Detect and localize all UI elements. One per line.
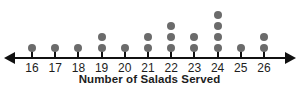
- data-dot-24-2: [214, 33, 222, 41]
- data-dot-26-1: [260, 44, 268, 52]
- data-dot-22-1: [167, 44, 175, 52]
- data-dot-22-2: [167, 33, 175, 41]
- axis-tick-25: [240, 51, 242, 59]
- data-dot-22-3: [167, 22, 175, 30]
- data-dot-18-1: [74, 44, 82, 52]
- data-dot-26-2: [260, 33, 268, 41]
- dot-plot-figure: oal 1617181920212223242526 Number of Sal…: [0, 0, 299, 87]
- data-dot-19-2: [98, 33, 106, 41]
- data-dot-24-3: [214, 22, 222, 30]
- data-dot-19-1: [98, 44, 106, 52]
- axis-tick-23: [193, 51, 195, 59]
- data-dot-21-2: [144, 33, 152, 41]
- data-dot-24-4: [214, 11, 222, 19]
- axis-tick-26: [263, 51, 265, 59]
- axis-tick-22: [170, 51, 172, 59]
- data-dot-21-1: [144, 44, 152, 52]
- data-dot-17-1: [51, 44, 59, 52]
- axis-tick-17: [54, 51, 56, 59]
- clipped-heading-fragment: oal: [4, 0, 19, 1]
- axis-tick-21: [147, 51, 149, 59]
- data-dot-23-1: [190, 44, 198, 52]
- data-dot-25-1: [237, 44, 245, 52]
- axis-tick-16: [31, 51, 33, 59]
- data-dot-24-1: [214, 44, 222, 52]
- axis-tick-24: [217, 51, 219, 59]
- data-dot-16-1: [28, 44, 36, 52]
- axis-tick-20: [124, 51, 126, 59]
- axis-tick-19: [101, 51, 103, 59]
- axis-tick-18: [77, 51, 79, 59]
- x-axis-title: Number of Salads Served: [0, 73, 299, 85]
- data-dot-23-2: [190, 33, 198, 41]
- axis-right-arrow-icon: [285, 52, 296, 64]
- data-dot-20-1: [121, 44, 129, 52]
